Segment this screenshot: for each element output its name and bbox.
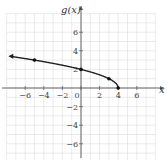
axes — [2, 6, 164, 158]
svg-text:−2: −2 — [57, 91, 69, 100]
svg-text:4: 4 — [73, 47, 78, 56]
svg-text:2: 2 — [97, 91, 102, 100]
function-graph: −6−4−20246−6−4−2246 x g(x) — [0, 0, 166, 160]
svg-text:−6: −6 — [66, 140, 78, 149]
svg-text:2: 2 — [73, 65, 78, 74]
svg-text:−6: −6 — [19, 91, 31, 100]
svg-text:0: 0 — [74, 91, 79, 100]
svg-text:6: 6 — [73, 28, 78, 37]
tick-labels: −6−4−20246−6−4−2246 — [19, 28, 139, 149]
svg-text:6: 6 — [134, 91, 139, 100]
curve-g-of-x — [10, 56, 118, 88]
svg-text:−4: −4 — [66, 121, 78, 130]
svg-text:−4: −4 — [38, 91, 50, 100]
y-axis-label: g(x) — [61, 4, 81, 15]
svg-text:−2: −2 — [66, 103, 78, 112]
x-axis-label: x — [159, 84, 165, 95]
svg-text:4: 4 — [116, 91, 121, 100]
